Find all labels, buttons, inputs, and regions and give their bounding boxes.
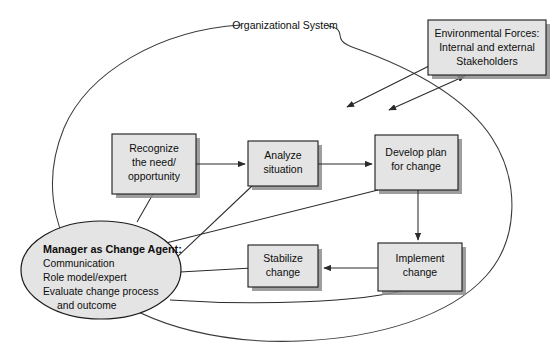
- analyze-label-line1: Analyze: [264, 149, 302, 161]
- stabilize-label-line2: change: [266, 266, 301, 278]
- connector-manager-to-recognize: [137, 194, 153, 222]
- manager-ellipse-line2: Role model/expert: [43, 272, 127, 283]
- recognize-label-line2: the need/: [132, 156, 176, 168]
- arrow-env-forces-left: [347, 60, 441, 107]
- manager-ellipse-title: Manager as Change Agent:: [43, 243, 182, 255]
- recognize-label-line1: Recognize: [129, 142, 179, 154]
- change-process-diagram: Environmental Forces: Internal and exter…: [0, 0, 560, 352]
- develop-plan-label-line1: Develop plan: [385, 146, 446, 158]
- env-forces-label-line3: Stakeholders: [456, 55, 517, 67]
- manager-ellipse-line4: and outcome: [57, 300, 117, 311]
- env-forces-label-line1: Environmental Forces:: [434, 27, 539, 39]
- stabilize-label-line1: Stabilize: [263, 252, 303, 264]
- implement-label-line1: Implement: [395, 252, 444, 264]
- env-forces-label-line2: Internal and external: [439, 41, 535, 53]
- analyze-label-line2: situation: [263, 163, 302, 175]
- implement-label-line2: change: [403, 266, 438, 278]
- organizational-system-label: Organizational System: [232, 19, 338, 31]
- connector-manager-to-implement: [170, 290, 406, 303]
- diagram-canvas: Environmental Forces: Internal and exter…: [0, 0, 560, 352]
- manager-ellipse-line1: Communication: [43, 258, 115, 269]
- manager-ellipse-line3: Evaluate change process: [43, 286, 159, 297]
- develop-plan-label-line2: for change: [391, 160, 441, 172]
- recognize-label-line3: opportunity: [128, 170, 181, 182]
- connector-manager-to-stabilize: [180, 268, 252, 272]
